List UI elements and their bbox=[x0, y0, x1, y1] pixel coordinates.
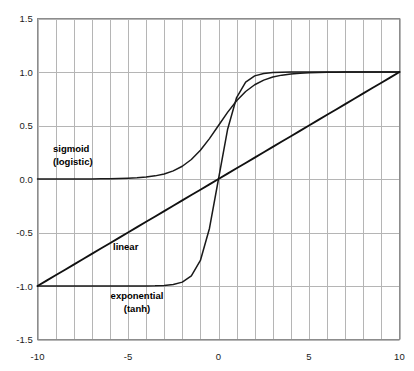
x-tick-label-2: -5 bbox=[113, 351, 143, 362]
annotation-sigmoid: sigmoid (logistic) bbox=[53, 143, 93, 168]
y-tick-label-5: -0.5 bbox=[5, 227, 33, 238]
chart-container: 1.5 1.0 0.5 0.0 -0.5 -1.0 -1.5 -10 -5 0 … bbox=[0, 0, 414, 371]
x-tick-label-3: 0 bbox=[204, 351, 234, 362]
annotation-sigmoid-line2: (logistic) bbox=[53, 156, 93, 169]
x-tick-label-1: -10 bbox=[23, 351, 53, 362]
annotation-exponential-line1: exponential bbox=[92, 290, 182, 303]
y-tick-label-4: 0.0 bbox=[5, 174, 33, 185]
annotation-linear: linear bbox=[113, 241, 138, 254]
y-tick-label-2: 1.0 bbox=[5, 67, 33, 78]
y-tick-label-7: -1.5 bbox=[5, 334, 33, 345]
y-tick-label-3: 0.5 bbox=[5, 120, 33, 131]
plot-area bbox=[0, 0, 414, 371]
y-tick-label-6: -1.0 bbox=[5, 281, 33, 292]
annotation-sigmoid-line1: sigmoid bbox=[53, 143, 93, 156]
annotation-linear-line1: linear bbox=[113, 241, 138, 254]
annotation-exponential: exponential (tanh) bbox=[92, 290, 182, 315]
x-tick-label-4: 5 bbox=[294, 351, 324, 362]
annotation-exponential-line2: (tanh) bbox=[92, 303, 182, 316]
x-tick-label-5: 10 bbox=[385, 351, 414, 362]
y-tick-label-1: 1.5 bbox=[5, 13, 33, 24]
